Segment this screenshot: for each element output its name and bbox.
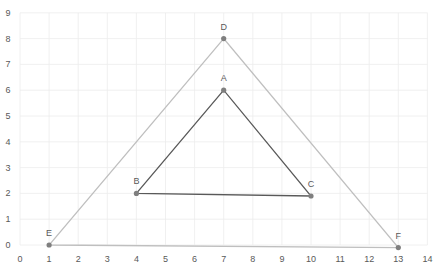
data-point-marker[interactable] <box>134 191 139 196</box>
y-tick-label: 5 <box>5 111 10 121</box>
y-tick-label: 0 <box>5 240 10 250</box>
data-point-label: E <box>46 228 52 238</box>
x-tick-label: 7 <box>221 254 226 264</box>
x-tick-label: 13 <box>393 254 403 264</box>
x-tick-label: 8 <box>250 254 255 264</box>
y-tick-label: 2 <box>5 188 10 198</box>
x-tick-label: 6 <box>192 254 197 264</box>
x-tick-label: 14 <box>422 254 432 264</box>
x-tick-label: 12 <box>364 254 374 264</box>
y-tick-label: 6 <box>5 85 10 95</box>
data-point-label: D <box>220 22 227 32</box>
x-tick-label: 0 <box>17 254 22 264</box>
x-tick-label: 4 <box>134 254 139 264</box>
y-tick-label: 8 <box>5 34 10 44</box>
y-axis-ticks: 0123456789 <box>5 8 10 250</box>
y-tick-label: 1 <box>5 214 10 224</box>
data-point-label: A <box>221 73 227 83</box>
y-tick-label: 4 <box>5 137 10 147</box>
y-tick-label: 9 <box>5 8 10 18</box>
data-point-marker[interactable] <box>221 88 226 93</box>
data-point-marker[interactable] <box>396 245 401 250</box>
data-point-marker[interactable] <box>308 193 313 198</box>
x-axis-ticks: 01234567891011121314 <box>17 254 432 264</box>
data-point-label: C <box>308 179 315 189</box>
x-tick-label: 9 <box>279 254 284 264</box>
y-tick-label: 7 <box>5 59 10 69</box>
x-tick-label: 3 <box>105 254 110 264</box>
x-tick-label: 11 <box>335 254 344 264</box>
x-tick-label: 10 <box>306 254 316 264</box>
data-point-label: F <box>396 231 402 241</box>
x-tick-label: 1 <box>47 254 52 264</box>
x-tick-label: 5 <box>163 254 168 264</box>
data-point-marker[interactable] <box>221 36 226 41</box>
y-tick-label: 3 <box>5 163 10 173</box>
x-tick-label: 2 <box>76 254 81 264</box>
data-point-label: B <box>133 176 139 186</box>
data-point-marker[interactable] <box>47 242 52 247</box>
scatter-chart: 01234567891011121314 0123456789 DEFABC <box>0 0 434 271</box>
